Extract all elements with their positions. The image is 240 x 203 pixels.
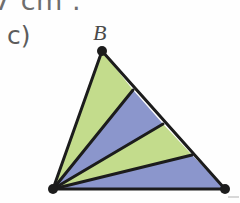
vertex-dot-b	[97, 46, 107, 56]
scan-artifact	[228, 196, 239, 198]
figure-page: 7 cm . c) B	[0, 0, 240, 203]
vertex-dot-c	[220, 184, 230, 194]
triangle-figure	[0, 0, 240, 203]
vertex-dot-a	[48, 184, 58, 194]
